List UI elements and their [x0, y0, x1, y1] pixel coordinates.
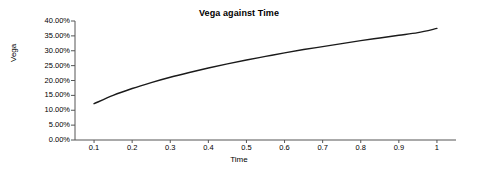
x-axis-title: Time [0, 155, 478, 164]
x-axis-tick-label: 0.6 [279, 143, 289, 152]
x-axis-tick-label: 0.2 [127, 143, 137, 152]
y-axis-title: Vega [9, 44, 18, 62]
x-axis-tick-label: 0.7 [317, 143, 327, 152]
x-axis-tick-label: 0.1 [89, 143, 99, 152]
x-axis-tick-label: 0.4 [203, 143, 213, 152]
x-axis-tick-label: 0.3 [165, 143, 175, 152]
x-axis-tick-label: 0.9 [394, 143, 404, 152]
x-axis-tick-labels: 0.10.20.30.40.50.60.70.80.91 [0, 0, 478, 173]
x-axis-tick-label: 0.8 [356, 143, 366, 152]
x-axis-tick-label: 0.5 [241, 143, 251, 152]
vega-against-time-chart: Vega against Time 0.00%5.00%10.00%15.00%… [0, 0, 478, 173]
x-axis-tick-label: 1 [435, 143, 439, 152]
